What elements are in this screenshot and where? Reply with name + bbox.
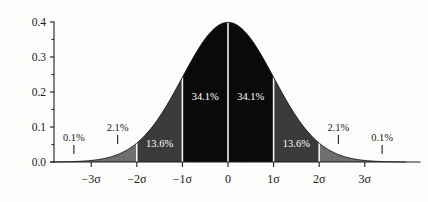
label-below-3-sigma: 0.1% bbox=[63, 132, 85, 143]
y-tick-label-0.2: 0.2 bbox=[32, 86, 47, 98]
normal-distribution-figure: 0.00.10.20.30.4 −3σ−2σ−1σ01σ2σ3σ 13.6%34… bbox=[0, 0, 428, 202]
distribution-chart: 0.00.10.20.30.4 −3σ−2σ−1σ01σ2σ3σ 13.6%34… bbox=[0, 0, 428, 202]
y-tick-label-0.4: 0.4 bbox=[32, 16, 47, 28]
x-tick-label-3: 3σ bbox=[359, 172, 372, 186]
x-tick-label--1: −1σ bbox=[173, 172, 193, 186]
x-tick-label-1: 1σ bbox=[267, 172, 280, 186]
label-zero-to-1: 34.1% bbox=[237, 91, 264, 102]
x-tick-label-0: 0 bbox=[225, 172, 231, 186]
x-tick-label--2: −2σ bbox=[127, 172, 147, 186]
y-tick-label-0.0: 0.0 bbox=[32, 156, 47, 168]
y-tick-label-0.1: 0.1 bbox=[32, 121, 47, 133]
label-minus-1-to-0: 34.1% bbox=[192, 91, 219, 102]
y-tick-label-0.3: 0.3 bbox=[32, 51, 47, 63]
label-minus-2-to-1: 13.6% bbox=[146, 138, 173, 149]
label-plus-1-to-2: 13.6% bbox=[283, 138, 310, 149]
x-tick-label-2: 2σ bbox=[313, 172, 326, 186]
label-minus-3-to-2: 2.1% bbox=[107, 122, 129, 133]
label-above-3-sigma: 0.1% bbox=[371, 132, 393, 143]
label-plus-2-to-3: 2.1% bbox=[327, 122, 349, 133]
x-tick-label--3: −3σ bbox=[82, 172, 102, 186]
